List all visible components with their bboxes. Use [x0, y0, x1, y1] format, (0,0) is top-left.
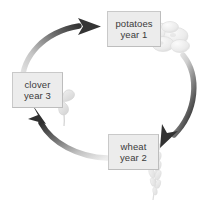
arrow-potatoes-to-wheat: [160, 55, 194, 148]
crop-year-potatoes: year 1: [120, 29, 147, 41]
crop-rotation-diagram: potatoes year 1 clover year 3 wheat year…: [0, 0, 216, 207]
crop-year-wheat: year 2: [120, 152, 147, 164]
crop-year-clover: year 3: [24, 90, 51, 102]
crop-name-clover: clover: [25, 79, 51, 91]
crop-name-potatoes: potatoes: [115, 18, 152, 30]
crop-box-wheat[interactable]: wheat year 2: [108, 134, 159, 170]
crop-box-clover[interactable]: clover year 3: [12, 72, 63, 108]
crop-name-wheat: wheat: [121, 141, 147, 153]
crop-box-potatoes[interactable]: potatoes year 1: [107, 11, 161, 47]
